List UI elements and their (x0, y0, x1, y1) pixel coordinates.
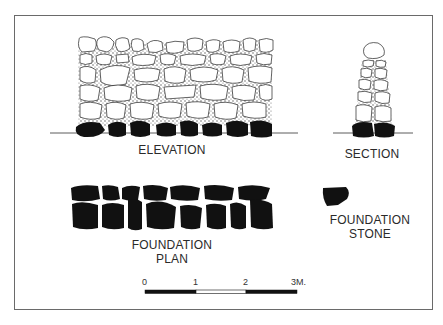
drawing-canvas (0, 0, 443, 325)
foundation-plan-view (71, 185, 273, 230)
foundation-plan-label-line1: FOUNDATION (122, 238, 222, 252)
scale-tick-0: 0 (142, 277, 147, 287)
section-view (333, 43, 413, 138)
scale-tick-3m: 3M. (291, 277, 306, 287)
foundation-stone-label-line2: STONE (320, 227, 420, 241)
section-label: SECTION (337, 147, 407, 161)
elevation-view (50, 37, 298, 138)
foundation-stone-legend-symbol (323, 187, 349, 206)
section-foundation-stones (352, 122, 395, 138)
foundation-stone-label-line1: FOUNDATION (320, 213, 420, 227)
scale-tick-1: 1 (193, 277, 198, 287)
foundation-plan-label-line2: PLAN (122, 252, 222, 266)
elevation-label: ELEVATION (132, 143, 212, 157)
scale-bar (145, 290, 297, 294)
scale-tick-2: 2 (243, 277, 248, 287)
